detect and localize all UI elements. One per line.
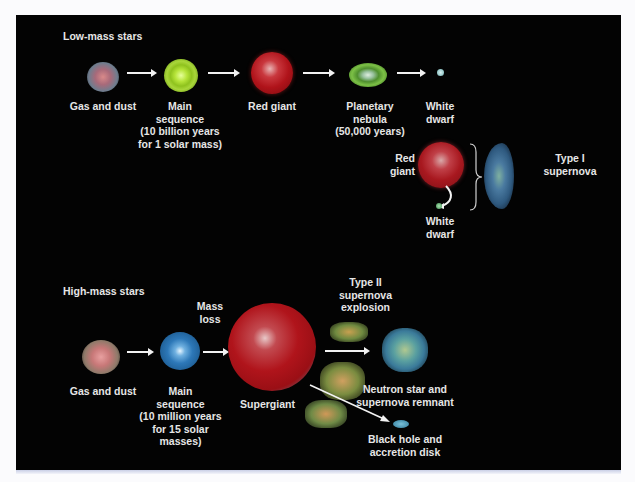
high-main-sequence-star (160, 332, 200, 370)
supergiant-star (228, 303, 316, 391)
high-mass-heading: High-mass stars (63, 285, 145, 298)
neutron-star-label: Neutron star and supernova remnant (355, 383, 455, 408)
planetary-nebula (349, 63, 387, 87)
panel-bottom-edge (16, 470, 621, 474)
low-white-dwarf (437, 69, 444, 76)
binary-red-giant-label: Red giant (375, 152, 415, 177)
arrow-gas-to-main (127, 72, 155, 74)
low-gas-dust-cloud (87, 62, 119, 92)
high-main-sequence-label: Main sequence (10 million years for 15 s… (133, 385, 228, 448)
type-1-supernova-remnant (484, 143, 514, 209)
type-1-supernova-label: Type I supernova (540, 152, 600, 177)
low-red-giant-star (251, 52, 293, 94)
mass-loss-label: Mass loss (190, 300, 230, 325)
low-main-sequence-label: Main sequence (10 billion years for 1 so… (135, 100, 225, 150)
black-hole-accretion-disk (393, 420, 409, 428)
black-hole-label: Black hole and accretion disk (365, 433, 445, 458)
planetary-nebula-label: Planetary nebula (50,000 years) (330, 100, 410, 138)
explosion-debris-top (330, 322, 368, 342)
low-mass-heading: Low-mass stars (63, 30, 142, 43)
neutron-star-remnant (382, 328, 428, 372)
low-red-giant-label: Red giant (240, 100, 304, 113)
transfer-arrow-icon (424, 184, 464, 212)
low-white-dwarf-label: White dwarf (420, 100, 460, 125)
low-gas-dust-label: Gas and dust (63, 100, 143, 113)
binary-white-dwarf (436, 203, 442, 209)
binary-red-giant-star (418, 142, 464, 188)
arrow-main-to-supergiant (203, 351, 227, 353)
arrow-redgiant-to-nebula (303, 72, 333, 74)
type-2-supernova-label: Type II supernova explosion (333, 276, 398, 314)
binary-white-dwarf-label: White dwarf (420, 215, 460, 240)
arrow-nebula-to-whitedwarf (397, 72, 424, 74)
arrow-supergiant-to-neutron-star (325, 350, 368, 352)
supergiant-label: Supergiant (235, 398, 300, 411)
arrow-main-to-redgiant (208, 72, 238, 74)
low-main-sequence-star (164, 59, 198, 92)
high-gas-dust-cloud (82, 340, 120, 374)
high-gas-dust-label: Gas and dust (63, 385, 143, 398)
arrow-high-gas-to-main (127, 351, 152, 353)
